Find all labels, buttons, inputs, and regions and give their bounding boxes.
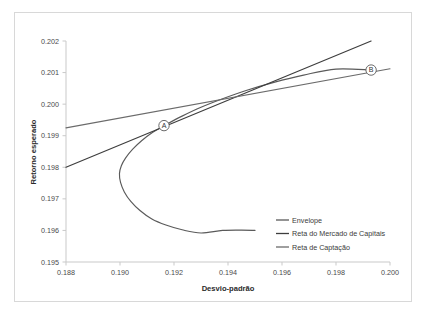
y-tick-marks	[63, 41, 67, 262]
x-tick-label: 0.200	[381, 268, 399, 277]
x-tick-label: 0.198	[327, 268, 345, 277]
chart-plot: 0.1880.1900.1920.1940.1960.1980.200 0.19…	[0, 0, 430, 317]
legend-item-label: Envelope	[292, 216, 322, 225]
x-axis-title: Desvio-padrão	[202, 284, 255, 293]
x-tick-labels: 0.1880.1900.1920.1940.1960.1980.200	[57, 268, 399, 277]
y-tick-label: 0.201	[41, 68, 59, 77]
chart-container: 0.1880.1900.1920.1940.1960.1980.200 0.19…	[0, 0, 430, 317]
point-label-a: A	[162, 122, 167, 129]
y-tick-label: 0.202	[41, 37, 59, 46]
y-tick-label: 0.200	[41, 100, 59, 109]
legend-item-label: Reta de Captação	[292, 243, 350, 252]
y-axis-title: Retorno esperado	[29, 119, 38, 184]
x-tick-label: 0.192	[165, 268, 183, 277]
y-tick-label: 0.198	[41, 163, 59, 172]
point-label-b: B	[369, 66, 374, 73]
y-tick-label: 0.199	[41, 131, 59, 140]
legend: EnvelopeReta do Mercado de CapitaisReta …	[276, 216, 385, 252]
x-tick-label: 0.190	[111, 268, 129, 277]
series-group	[66, 41, 390, 233]
y-tick-label: 0.196	[41, 226, 59, 235]
x-tick-label: 0.196	[273, 268, 291, 277]
y-tick-label: 0.195	[41, 258, 59, 267]
legend-item-label: Reta do Mercado de Capitais	[292, 229, 385, 238]
y-tick-labels: 0.1950.1960.1970.1980.1990.2000.2010.202	[41, 37, 59, 267]
x-tick-label: 0.194	[219, 268, 237, 277]
x-tick-label: 0.188	[57, 268, 75, 277]
series-line-reta-de-capta-o	[66, 69, 390, 128]
series-line-reta-do-mercado-de-capitais	[66, 41, 371, 167]
series-line-envelope	[119, 126, 255, 233]
y-tick-label: 0.197	[41, 194, 59, 203]
x-tick-marks	[66, 262, 390, 266]
annotation-markers: AB	[159, 65, 376, 131]
